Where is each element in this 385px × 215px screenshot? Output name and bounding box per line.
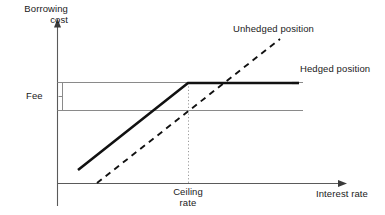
- unhedged-position-label: Unhedged position: [233, 23, 314, 34]
- ceiling-rate-label: Ceiling rate: [158, 186, 218, 208]
- hedged-position-label: Hedged position: [300, 63, 370, 74]
- hedged-position-line: [78, 83, 292, 170]
- interest-rate-cap-chart: Borrowing cost Fee Ceiling rate Interest…: [0, 0, 385, 215]
- ceiling-rate-label-line2: rate: [158, 197, 218, 208]
- y-axis: [54, 19, 61, 207]
- x-axis-label: Interest rate: [316, 188, 368, 199]
- y-axis-label-line1: Borrowing: [24, 3, 68, 14]
- ceiling-rate-label-line1: Ceiling: [173, 186, 203, 197]
- fee-label: Fee: [26, 90, 43, 101]
- y-axis-label-line2: cost: [6, 14, 68, 25]
- chart-canvas: [0, 0, 385, 215]
- y-axis-label: Borrowing cost: [6, 3, 68, 25]
- fee-bracket: [59, 83, 63, 111]
